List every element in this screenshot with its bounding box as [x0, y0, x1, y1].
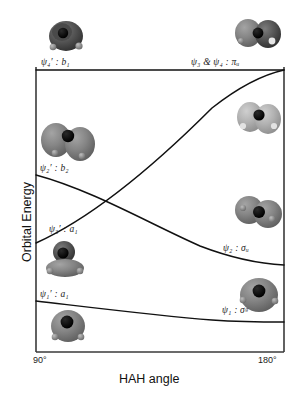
x-axis-tick-right: 180°	[258, 355, 277, 365]
label-bent-psi2-b2: ψ₂′ : b₂	[40, 163, 69, 173]
label-bent-psi3-a1: ψ₃′ : a₁	[49, 224, 78, 234]
label-bent-psi1-a1: ψ₁′ : a₁	[40, 289, 69, 299]
label-bent-psi4-b1: ψ₄′ : b₁	[41, 57, 70, 67]
x-axis-title: HAH angle	[119, 372, 179, 386]
orbital-sigma-u-linear	[235, 196, 282, 228]
x-axis-tick-left: 90°	[33, 355, 47, 365]
orbital-piu-right-mid	[237, 102, 281, 134]
y-axis-title: Orbital Energy	[20, 182, 34, 262]
label-linear-sigma-u: ψ₂ : σᵤ	[223, 243, 249, 253]
orbital-b1-bent	[49, 21, 83, 51]
walsh-diagram-figure: ψ₄′ : b₁ ψ₃ & ψ₄ : πᵤ ψ₂′ : b₂ ψ₃′ : a₁ …	[0, 0, 306, 404]
label-linear-sigma-g: ψ₁ : σᵍ	[222, 305, 248, 315]
label-linear-pi-u: ψ₃ & ψ₄ : πᵤ	[191, 57, 239, 67]
orbital-a1-bent-low	[51, 310, 85, 342]
orbital-b2-bent	[41, 123, 95, 161]
orbital-piu-linear	[235, 19, 281, 48]
orbital-a1-bent-mid	[46, 241, 84, 277]
